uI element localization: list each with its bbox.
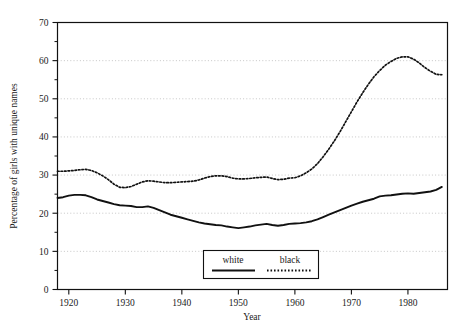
y-tick-label-0: 0	[44, 285, 49, 295]
x-tick-label-1920: 1920	[59, 298, 78, 308]
x-tick-label-1940: 1940	[172, 298, 191, 308]
legend-label-white: white	[222, 255, 243, 265]
x-tick-label-1960: 1960	[285, 298, 304, 308]
y-axis-title: Percentage of girls with unique names	[9, 83, 19, 229]
x-tick-label-1980: 1980	[398, 298, 417, 308]
x-tick-label-1930: 1930	[116, 298, 135, 308]
chart-background	[0, 0, 474, 333]
legend-label-black: black	[280, 255, 301, 265]
line-chart: 010203040506070 192019301940195019601970…	[0, 0, 474, 333]
x-tick-label-1950: 1950	[229, 298, 248, 308]
chart-legend: white black	[204, 251, 319, 279]
y-tick-label-70: 70	[39, 18, 49, 28]
y-tick-label-30: 30	[39, 170, 49, 180]
y-tick-label-60: 60	[39, 56, 49, 66]
y-tick-label-50: 50	[39, 94, 49, 104]
x-tick-label-1970: 1970	[342, 298, 361, 308]
y-tick-label-20: 20	[39, 209, 49, 219]
x-axis-title: Year	[243, 312, 261, 322]
legend-box	[204, 251, 319, 279]
y-tick-label-10: 10	[39, 247, 49, 257]
y-tick-label-40: 40	[39, 132, 49, 142]
chart-figure: 010203040506070 192019301940195019601970…	[0, 0, 474, 333]
